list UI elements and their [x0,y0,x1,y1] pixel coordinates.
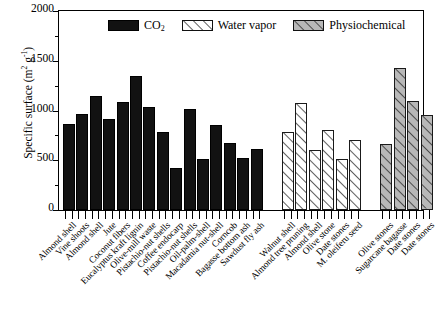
y-tick-minor [55,86,59,87]
y-tick-label: 1500 [20,53,54,65]
y-tick-labels: 0500100015002000 [16,0,54,220]
legend-swatch-co2 [108,20,139,31]
bar [76,114,88,210]
legend-label-wv: Water vapor [218,18,277,33]
legend-swatch-pc [293,20,324,31]
y-tick-major [53,11,59,12]
y-tick-minor [55,36,59,37]
y-tick-major [53,111,59,112]
y-tick-label: 500 [20,152,54,164]
legend-swatch-wv [182,20,213,31]
y-tick-minor [55,135,59,136]
y-tick-label: 2000 [20,3,54,15]
y-tick-label: 0 [20,202,54,214]
legend-item-co2: CO2 [108,18,165,33]
legend-label-pc: Physiochemical [329,18,405,33]
y-tick-label: 1000 [20,103,54,115]
legend-item-wv: Water vapor [182,18,277,33]
legend-item-pc: Physiochemical [293,18,405,33]
bar [63,124,75,210]
y-tick-major [53,61,59,62]
y-tick-major [53,160,59,161]
chart-legend: CO2Water vaporPhysiochemical [108,17,405,33]
legend-label-co2: CO2 [144,18,165,33]
x-tick-labels: Almond shellVine shootsAlmond shellJuteC… [0,218,428,335]
y-tick-minor [55,185,59,186]
